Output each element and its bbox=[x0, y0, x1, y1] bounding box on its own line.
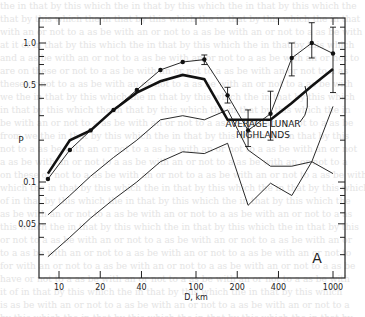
chart: 1020401002004001000 0.050.10.51.0 AVERAG… bbox=[0, 0, 365, 317]
y-tick-label: 0.5 bbox=[23, 81, 36, 90]
annotation-highlands: HIGHLANDS bbox=[236, 130, 290, 140]
x-axis-label: D, km bbox=[184, 293, 208, 302]
y-axis-label: P bbox=[18, 135, 24, 145]
data-point bbox=[46, 177, 50, 181]
series-layer bbox=[46, 23, 336, 257]
y-tick-label: 0.05 bbox=[18, 220, 36, 229]
x-tick-label: 20 bbox=[95, 283, 105, 292]
data-point bbox=[181, 60, 185, 64]
data-point bbox=[310, 41, 314, 45]
series-line-4 bbox=[48, 143, 333, 256]
data-point bbox=[225, 93, 229, 97]
series-line-1 bbox=[48, 43, 333, 179]
data-point bbox=[158, 68, 162, 72]
data-point bbox=[268, 112, 272, 116]
x-tick-label: 200 bbox=[230, 283, 245, 292]
data-point bbox=[68, 148, 72, 152]
annotation-average-lunar: AVERAGE LUNAR bbox=[225, 119, 300, 129]
x-tick-label: 100 bbox=[188, 283, 203, 292]
data-point bbox=[290, 56, 294, 60]
x-tick-label: 10 bbox=[54, 283, 64, 292]
x-tick-label: 1000 bbox=[323, 283, 343, 292]
plot-frame bbox=[39, 18, 345, 278]
annotations: AVERAGE LUNAR HIGHLANDS A bbox=[225, 86, 322, 266]
x-tick-label: 40 bbox=[136, 283, 146, 292]
x-axis-ticks: 1020401002004001000 bbox=[54, 18, 343, 292]
y-tick-label: 0.1 bbox=[23, 178, 36, 187]
x-tick-label: 400 bbox=[271, 283, 286, 292]
data-point bbox=[331, 51, 335, 55]
panel-label: A bbox=[312, 250, 322, 266]
data-point bbox=[202, 57, 206, 61]
y-tick-label: 1.0 bbox=[23, 39, 36, 48]
